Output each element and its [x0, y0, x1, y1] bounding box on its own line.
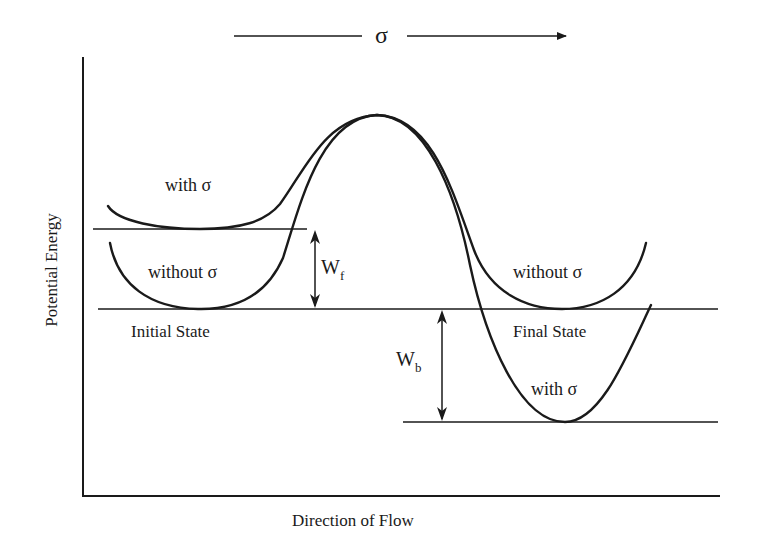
forward-barrier-label: Wf — [321, 256, 344, 279]
without-stress-label-right: without σ — [513, 262, 582, 283]
stress-symbol-label: σ — [375, 22, 388, 49]
without-stress-label-left: without σ — [148, 262, 217, 283]
with-stress-label-left: with σ — [165, 175, 211, 196]
forward-barrier-sub: f — [340, 268, 344, 283]
with-stress-label-right: with σ — [531, 379, 577, 400]
backward-barrier-arrow — [437, 310, 447, 421]
forward-barrier-main: W — [321, 256, 340, 278]
backward-barrier-main: W — [396, 348, 415, 370]
y-axis-label: Potential Energy — [42, 213, 62, 326]
forward-barrier-arrow — [310, 230, 320, 308]
backward-barrier-sub: b — [415, 360, 422, 375]
backward-barrier-label: Wb — [396, 348, 421, 371]
potential-energy-diagram — [0, 0, 757, 543]
x-axis-label: Direction of Flow — [292, 511, 414, 531]
final-state-label: Final State — [513, 322, 586, 342]
initial-state-label: Initial State — [131, 322, 210, 342]
